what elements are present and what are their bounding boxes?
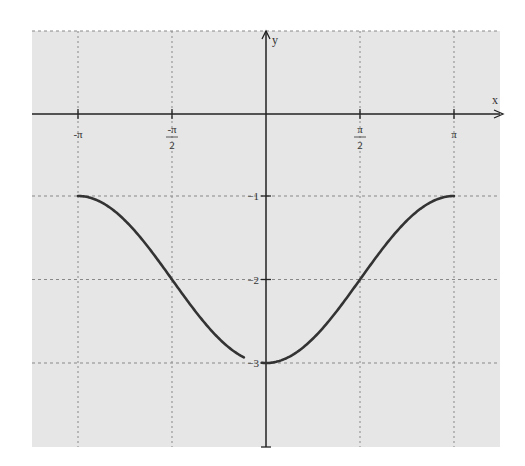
y-tick-label: −3: [247, 357, 259, 369]
y-axis-label: y: [272, 33, 278, 47]
x-tick-label-denominator: 2: [169, 139, 175, 151]
x-tick-label: -π: [73, 128, 83, 140]
x-tick-label-numerator: -π: [167, 123, 177, 135]
function-plot: x y -π-π2π2π −1−2−3: [0, 0, 525, 466]
x-tick-label: π: [451, 128, 457, 140]
x-tick-label-numerator: π: [357, 123, 363, 135]
x-axis-label: x: [492, 93, 498, 107]
y-tick-label: −2: [247, 274, 259, 286]
x-tick-label-denominator: 2: [357, 139, 363, 151]
y-tick-label: −1: [247, 190, 259, 202]
